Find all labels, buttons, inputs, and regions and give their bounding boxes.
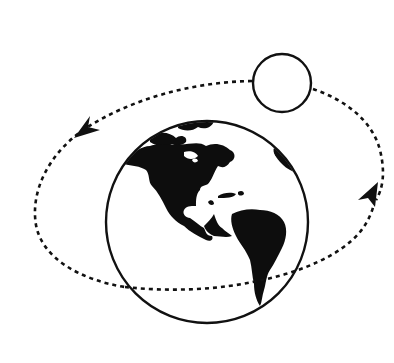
arrowhead-left-icon [74,116,100,138]
arrowhead-right-icon [358,182,378,207]
orbit-diagram: Moon orbiting the Earth Earth Moon [0,0,394,363]
moon [253,54,311,112]
earth [106,118,308,323]
